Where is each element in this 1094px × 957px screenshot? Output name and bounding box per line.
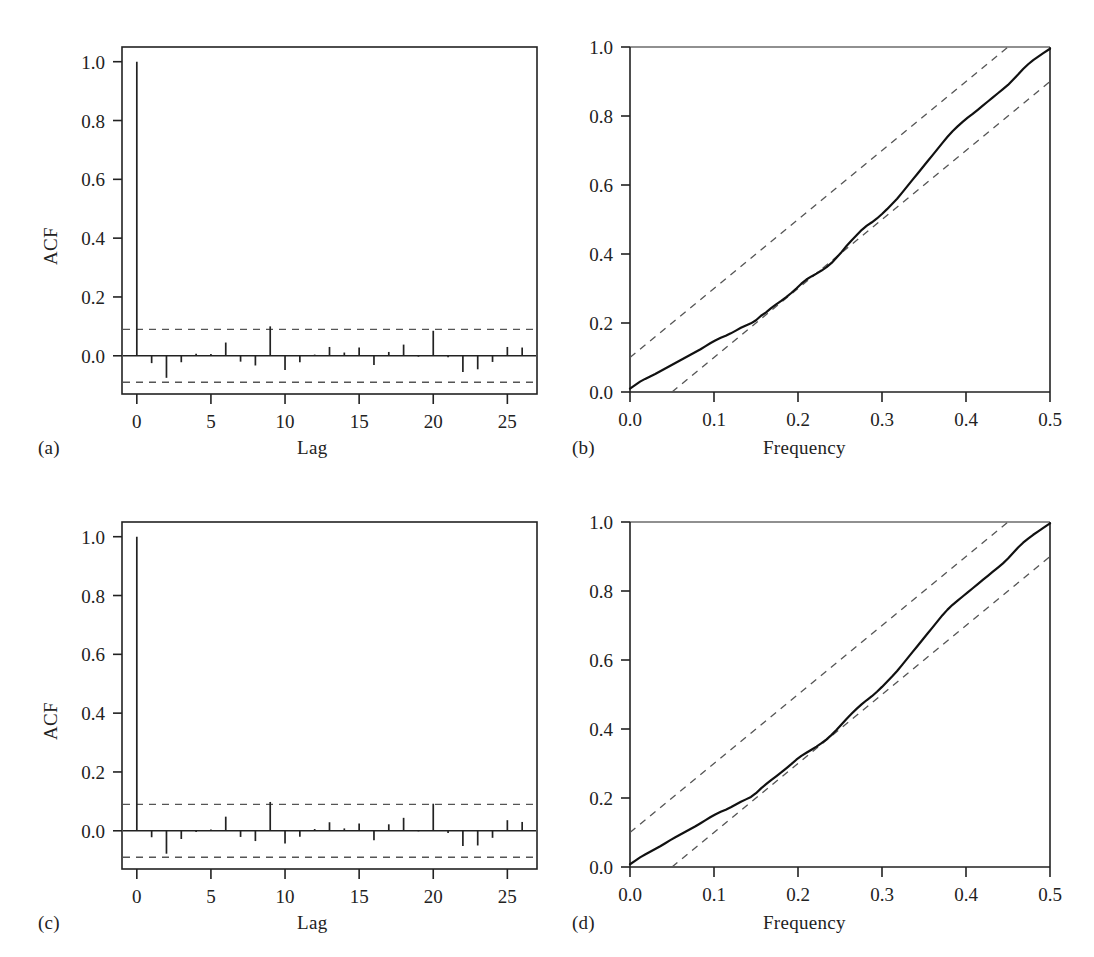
svg-text:0.6: 0.6 xyxy=(589,650,613,671)
svg-text:20: 20 xyxy=(424,886,443,907)
svg-text:0.2: 0.2 xyxy=(786,884,810,905)
svg-text:1.0: 1.0 xyxy=(81,52,105,73)
svg-text:0.4: 0.4 xyxy=(954,884,978,905)
panel-a-label: (a) xyxy=(38,437,60,459)
panel-b-axes xyxy=(630,47,1050,392)
svg-text:0.0: 0.0 xyxy=(618,884,642,905)
panel-c-spikes xyxy=(137,537,522,854)
svg-text:10: 10 xyxy=(276,411,295,432)
svg-text:0.3: 0.3 xyxy=(870,409,894,430)
svg-text:0.0: 0.0 xyxy=(618,409,642,430)
panel-a-plot: 0.00.20.40.60.81.0 0510152025 xyxy=(0,0,560,480)
svg-text:0.6: 0.6 xyxy=(81,169,105,190)
svg-text:0.4: 0.4 xyxy=(954,409,978,430)
svg-text:0.0: 0.0 xyxy=(81,346,105,367)
svg-text:0.4: 0.4 xyxy=(81,228,105,249)
svg-text:0.4: 0.4 xyxy=(81,703,105,724)
svg-text:15: 15 xyxy=(350,411,369,432)
svg-text:15: 15 xyxy=(350,886,369,907)
panel-b-series xyxy=(630,49,1050,389)
svg-text:1.0: 1.0 xyxy=(589,37,613,58)
panel-d-label: (d) xyxy=(572,912,595,934)
panel-c-plot: 0.00.20.40.60.81.0 0510152025 xyxy=(0,480,560,957)
svg-text:0.2: 0.2 xyxy=(81,287,105,308)
panel-b-xticks: 0.00.10.20.30.40.5 xyxy=(618,392,1062,430)
panel-d-x-axis-title: Frequency xyxy=(763,912,846,934)
svg-text:0.8: 0.8 xyxy=(81,586,105,607)
panel-d-confidence-bands xyxy=(630,522,1050,867)
panel-c-axes xyxy=(122,522,537,869)
panel-b-plot: 0.00.20.40.60.81.0 0.00.10.20.30.40.5 xyxy=(560,0,1094,480)
panel-d-xticks: 0.00.10.20.30.40.5 xyxy=(618,867,1062,905)
svg-text:0.5: 0.5 xyxy=(1038,409,1062,430)
panel-c-label: (c) xyxy=(38,912,60,934)
svg-text:0.3: 0.3 xyxy=(870,884,894,905)
figure-container: 0.00.20.40.60.81.0 0510152025 ACF Lag (a… xyxy=(0,0,1094,957)
panel-d-plot: 0.00.20.40.60.81.0 0.00.10.20.30.40.5 xyxy=(560,480,1094,957)
panel-a-x-axis-title: Lag xyxy=(297,437,327,459)
svg-text:25: 25 xyxy=(498,411,517,432)
panel-a: 0.00.20.40.60.81.0 0510152025 ACF Lag (a… xyxy=(0,0,560,480)
panel-b: 0.00.20.40.60.81.0 0.00.10.20.30.40.5 Fr… xyxy=(560,0,1094,480)
svg-text:0.1: 0.1 xyxy=(702,409,726,430)
svg-text:0: 0 xyxy=(132,886,142,907)
svg-text:1.0: 1.0 xyxy=(81,527,105,548)
svg-text:0.2: 0.2 xyxy=(786,409,810,430)
svg-text:0.2: 0.2 xyxy=(81,762,105,783)
panel-d-series xyxy=(630,523,1050,864)
svg-text:0.2: 0.2 xyxy=(589,313,613,334)
svg-text:5: 5 xyxy=(206,886,216,907)
svg-text:25: 25 xyxy=(498,886,517,907)
panel-a-xticks: 0510152025 xyxy=(132,394,517,432)
svg-text:0.4: 0.4 xyxy=(589,719,613,740)
panel-a-spikes xyxy=(137,62,522,378)
panel-d-yticks: 0.00.20.40.60.81.0 xyxy=(589,512,630,878)
svg-text:0.0: 0.0 xyxy=(589,857,613,878)
svg-text:0.4: 0.4 xyxy=(589,244,613,265)
svg-text:20: 20 xyxy=(424,411,443,432)
svg-text:0.1: 0.1 xyxy=(702,884,726,905)
svg-text:0.8: 0.8 xyxy=(589,581,613,602)
svg-text:10: 10 xyxy=(276,886,295,907)
svg-text:0.0: 0.0 xyxy=(589,382,613,403)
svg-text:1.0: 1.0 xyxy=(589,512,613,533)
svg-text:0.6: 0.6 xyxy=(81,644,105,665)
svg-text:0.2: 0.2 xyxy=(589,788,613,809)
panel-a-yticks: 0.00.20.40.60.81.0 xyxy=(81,52,122,367)
svg-text:0.6: 0.6 xyxy=(589,175,613,196)
panel-c-x-axis-title: Lag xyxy=(297,912,327,934)
svg-text:5: 5 xyxy=(206,411,216,432)
svg-text:0.5: 0.5 xyxy=(1038,884,1062,905)
svg-text:0: 0 xyxy=(132,411,142,432)
panel-d: 0.00.20.40.60.81.0 0.00.10.20.30.40.5 Fr… xyxy=(560,480,1094,957)
panel-c: 0.00.20.40.60.81.0 0510152025 ACF Lag (c… xyxy=(0,480,560,957)
svg-text:0.8: 0.8 xyxy=(81,111,105,132)
panel-c-y-axis-title: ACF xyxy=(40,702,62,740)
svg-text:0.0: 0.0 xyxy=(81,821,105,842)
panel-a-axes xyxy=(122,47,537,394)
panel-b-label: (b) xyxy=(572,437,595,459)
panel-b-x-axis-title: Frequency xyxy=(763,437,846,459)
panel-c-xticks: 0510152025 xyxy=(132,869,517,907)
panel-c-yticks: 0.00.20.40.60.81.0 xyxy=(81,527,122,842)
panel-b-confidence-bands xyxy=(630,47,1050,392)
panel-a-y-axis-title: ACF xyxy=(40,227,62,265)
svg-text:0.8: 0.8 xyxy=(589,106,613,127)
panel-d-axes xyxy=(630,522,1050,867)
panel-b-yticks: 0.00.20.40.60.81.0 xyxy=(589,37,630,403)
